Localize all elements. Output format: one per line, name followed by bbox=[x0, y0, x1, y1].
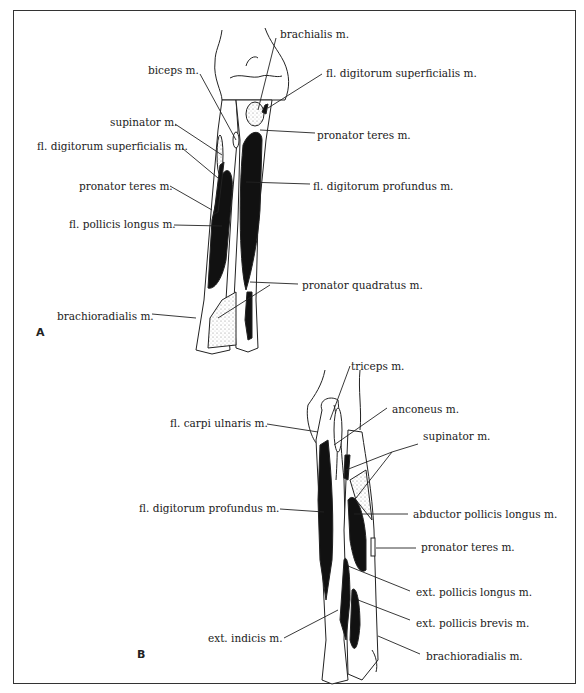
fdp-a bbox=[240, 132, 262, 290]
label-apl-b: abductor pollicis longus m. bbox=[413, 508, 557, 520]
label-pronator-teres-a-left: pronator teres m. bbox=[79, 180, 173, 192]
label-pronator-teres-a-right: pronator teres m. bbox=[317, 129, 411, 141]
label-pronator-quadratus-a: pronator quadratus m. bbox=[302, 279, 423, 291]
label-fcu-b: fl. carpi ulnaris m. bbox=[170, 417, 268, 429]
label-pronator-teres-b: pronator teres m. bbox=[421, 541, 515, 553]
panel-label-b: B bbox=[137, 648, 145, 661]
label-fds-a-left: fl. digitorum superficialis m. bbox=[37, 140, 188, 152]
label-anconeus-b: anconeus m. bbox=[392, 403, 459, 415]
panel-label-a: A bbox=[36, 326, 45, 339]
label-epl-b: ext. pollicis longus m. bbox=[416, 586, 532, 598]
label-fdp-b: fl. digitorum profundus m. bbox=[139, 502, 279, 514]
label-brachialis-a: brachialis m. bbox=[280, 28, 349, 40]
label-biceps-a: biceps m. bbox=[148, 64, 199, 76]
label-brachioradialis-a: brachioradialis m. bbox=[57, 310, 154, 322]
label-brachioradialis-b: brachioradialis m. bbox=[426, 650, 523, 662]
label-supinator-b: supinator m. bbox=[423, 430, 490, 442]
label-triceps-b: triceps m. bbox=[351, 360, 404, 372]
label-fdp-a: fl. digitorum profundus m. bbox=[313, 180, 453, 192]
label-fds-a-right: fl. digitorum superficialis m. bbox=[326, 67, 477, 79]
label-fpl-a: fl. pollicis longus m. bbox=[69, 218, 176, 230]
label-supinator-a: supinator m. bbox=[110, 116, 177, 128]
humerus-a bbox=[215, 28, 289, 100]
label-ext-indicis-b: ext. indicis m. bbox=[208, 632, 283, 644]
label-epb-b: ext. pollicis brevis m. bbox=[416, 617, 529, 629]
